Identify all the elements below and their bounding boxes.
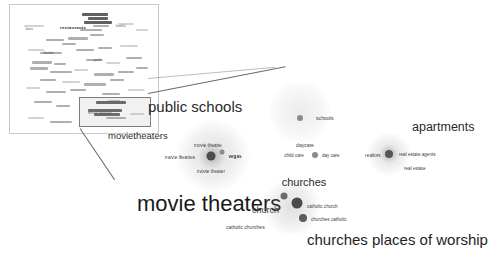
inset-word: hotels — [116, 24, 126, 28]
callout-leader-line-top — [148, 66, 286, 94]
movie-theatre-dot[interactable] — [220, 150, 225, 155]
cluster-heading-churches: churches — [282, 176, 327, 188]
cluster-term-movie-theater: movie theater — [197, 169, 225, 174]
overview-map-inset[interactable]: restaurants bars hotels banks parks scho… — [9, 4, 159, 134]
visualization-stage: restaurants bars hotels banks parks scho… — [0, 0, 501, 253]
realtors-dot[interactable] — [385, 150, 393, 158]
cluster-term-movie-theatres: movie theatres — [165, 155, 195, 160]
church-dot[interactable] — [281, 193, 288, 200]
inset-word: bars — [26, 27, 33, 31]
cluster-term-real-estate-agents: real estate agents — [399, 152, 436, 157]
inset-word: parks — [94, 58, 103, 62]
schools-dot[interactable] — [297, 115, 303, 121]
overview-map-canvas: restaurants bars hotels banks parks scho… — [10, 5, 158, 133]
inset-word: restaurants — [60, 25, 86, 30]
cluster-heading-public-schools: public schools — [148, 98, 242, 115]
day-care-dot[interactable] — [312, 152, 318, 158]
cluster-term-catholic-churches: catholic churches — [226, 224, 265, 230]
cluster-subheading-movietheaters: movietheaters — [108, 130, 168, 141]
cluster-heading-apartments: apartments — [412, 120, 475, 134]
cluster-term-churches-catholic: churches catholic — [311, 217, 347, 222]
cluster-term-schools: schools — [316, 115, 334, 121]
cluster-term-day-care: day care — [322, 153, 340, 158]
schools-halo — [269, 81, 331, 143]
cluster-term-movie-theatre: movie theatre — [194, 143, 222, 148]
cluster-term-real-estate: real estate — [404, 166, 425, 171]
churches-catholic-dot[interactable] — [299, 214, 307, 222]
cluster-term-catholic-church: catholic church — [307, 204, 338, 209]
catholic-church-dot[interactable] — [292, 198, 303, 209]
cluster-term-child-care: child care — [284, 153, 304, 158]
cluster-term-vegas: vegas — [228, 154, 241, 159]
cluster-term-realtors: realtors — [365, 153, 380, 158]
inset-word: banks — [44, 51, 54, 55]
movie-theater-dot[interactable] — [207, 152, 216, 161]
detail-selection-rect[interactable] — [79, 97, 151, 127]
cluster-heading-churches-places-of-worship: churches places of worship — [307, 231, 488, 248]
cluster-heading-daycare: daycare — [296, 142, 314, 148]
cluster-term-church: church — [252, 205, 279, 215]
